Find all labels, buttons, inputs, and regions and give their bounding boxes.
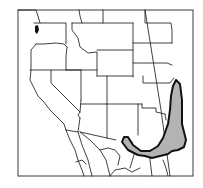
baja-east-coast xyxy=(78,132,92,176)
mexico-state-line-1 xyxy=(100,148,120,165)
washington-coast xyxy=(18,10,40,23)
sonora-coast xyxy=(80,132,110,176)
washington-oregon-border xyxy=(36,43,67,47)
oklahoma-arkansas-border xyxy=(165,114,166,120)
washington-border xyxy=(34,23,66,44)
arizona-nevada-border xyxy=(78,100,81,118)
pacific-coastline xyxy=(30,44,66,130)
wyoming-colorado-border xyxy=(97,76,133,77)
idaho-montana-border xyxy=(72,23,97,76)
mexico-state-line-4 xyxy=(163,160,168,176)
california-nevada-border xyxy=(51,70,80,112)
mexico-interior-north xyxy=(110,168,140,176)
california-arizona-border xyxy=(66,118,80,132)
montana-western-edge xyxy=(79,10,82,23)
oregon-idaho-border xyxy=(66,47,67,70)
species-range-area xyxy=(122,80,186,158)
nebraska-kansas-border xyxy=(143,76,174,83)
puget-sound xyxy=(35,25,39,34)
baja-west-coast xyxy=(66,130,84,176)
range-map xyxy=(0,0,203,188)
south-dakota-nebraska-border xyxy=(133,63,172,65)
map-canvas xyxy=(0,0,203,188)
baja-divider xyxy=(76,160,86,164)
